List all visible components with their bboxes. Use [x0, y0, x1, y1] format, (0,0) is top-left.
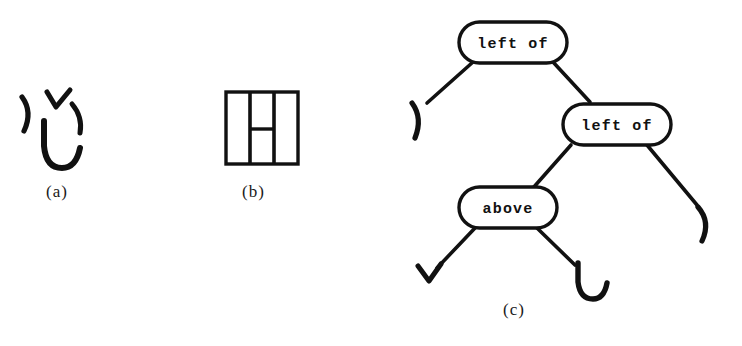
stroke-vee-top: [47, 90, 70, 107]
tree-node-left-of-second[interactable]: left of: [563, 104, 671, 145]
tree-node-above-label: above: [482, 201, 533, 218]
tree-edge-node2-to-right-leaf: [647, 145, 697, 205]
panel-b-h-square: (b): [200, 0, 360, 220]
panel-a-face: (a): [0, 0, 190, 220]
caption-b: (b): [242, 182, 265, 202]
tree-edge-node3-to-u-leaf: [537, 228, 575, 265]
tree-node-left-of-second-label: left of: [581, 118, 652, 135]
stroke-u-curve-mouth: [44, 121, 80, 168]
tree-leaf-right-paren-outer-right: [698, 207, 706, 241]
tree-edge-root-to-node2: [553, 62, 590, 102]
tree-leaf-vee: [418, 264, 441, 281]
tree-leaf-u-curve: [578, 263, 607, 299]
figure-root: (a) (b) left of: [0, 0, 742, 346]
tree-leaf-right-paren-outer-left: [412, 103, 418, 138]
caption-c: (c): [503, 300, 525, 320]
tree-node-left-of-root-label: left of: [477, 36, 548, 53]
tree-node-left-of-root[interactable]: left of: [459, 22, 567, 63]
tree-edge-node2-to-node3: [533, 145, 571, 188]
stroke-right-paren-left: [22, 97, 28, 131]
stroke-right-paren-right: [72, 104, 81, 133]
tree-edge-node3-to-vee-leaf: [437, 228, 475, 268]
caption-a: (a): [46, 182, 68, 202]
tree-node-above[interactable]: above: [459, 187, 557, 228]
tree-edge-root-to-left-leaf: [427, 62, 473, 103]
panel-c-parse-tree: left of left of above (c): [385, 0, 742, 346]
